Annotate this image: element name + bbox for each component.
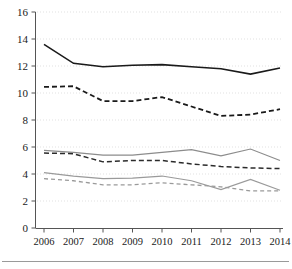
gridlines-group: [37, 12, 283, 201]
x-tick-label: 2009: [122, 236, 143, 247]
y-tick-labels: 0246810121416: [17, 6, 29, 234]
y-tick-label: 6: [23, 141, 29, 153]
y-tick-label: 2: [23, 195, 29, 207]
x-axis: [36, 229, 284, 233]
y-tick-label: 10: [17, 87, 29, 99]
x-tick-label: 2012: [211, 236, 232, 247]
y-tick-label: 4: [23, 168, 29, 180]
x-tick-labels: 200620072008200920102011201220132014: [34, 236, 292, 247]
series-line-series-1: [44, 44, 280, 74]
x-tick-label: 2011: [181, 236, 202, 247]
y-tick-label: 12: [17, 60, 28, 72]
series-line-series-4: [44, 153, 280, 169]
series-line-series-2: [44, 86, 280, 116]
y-tick-label: 16: [17, 6, 29, 18]
x-tick-label: 2006: [34, 236, 55, 247]
x-tick-label: 2013: [240, 236, 261, 247]
y-tick-label: 0: [23, 222, 29, 234]
y-tick-label: 14: [17, 33, 29, 45]
y-axis: [32, 12, 36, 228]
x-tick-label: 2014: [270, 236, 292, 247]
chart-svg: 0246810121416 20062007200820092010201120…: [0, 0, 291, 269]
y-tick-label: 8: [23, 114, 29, 126]
x-tick-label: 2008: [93, 236, 114, 247]
line-chart: 0246810121416 20062007200820092010201120…: [0, 0, 291, 269]
x-tick-label: 2007: [63, 236, 84, 247]
series-line-series-6: [44, 179, 280, 191]
x-tick-label: 2010: [152, 236, 173, 247]
